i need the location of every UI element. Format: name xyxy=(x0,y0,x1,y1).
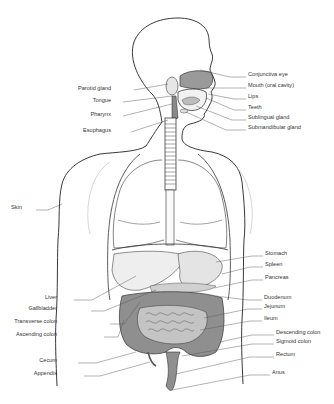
label-skin: Skin xyxy=(11,204,22,211)
label-conjunctiva-eye: Conjunctiva eye xyxy=(248,71,288,78)
label-parotid-gland: Parotid gland xyxy=(78,85,111,92)
label-sigmoid-colon: Sigmoid colon xyxy=(276,338,311,345)
parotid-gland-shape xyxy=(166,77,178,95)
label-stomach: Stomach xyxy=(265,250,287,257)
label-descending-colon: Descending colon xyxy=(276,329,320,336)
label-mouth: Mouth (oral cavity) xyxy=(248,82,294,89)
trachea xyxy=(165,118,176,245)
small-intestine xyxy=(137,305,207,344)
label-transverse-colon: Transverse colon xyxy=(14,318,57,325)
stomach-shape xyxy=(178,251,222,288)
label-duodenum: Duodenum xyxy=(264,294,291,301)
label-liver: Liver xyxy=(45,294,57,301)
label-pancreas: Pancreas xyxy=(265,274,289,281)
nasal-cavity xyxy=(180,71,213,89)
label-anus: Anus xyxy=(272,369,285,376)
label-spleen: Spleen xyxy=(265,261,282,268)
label-gallbladder: Gallbladder xyxy=(28,305,57,312)
label-pharynx: Pharynx xyxy=(90,111,111,118)
label-cecum: Cecum xyxy=(39,357,57,364)
pharynx-shape xyxy=(172,96,178,120)
label-rectum: Rectum xyxy=(276,351,295,358)
label-ascending-colon: Ascending colon xyxy=(16,331,57,338)
label-lips: Lips xyxy=(248,93,258,100)
pancreas-shape xyxy=(150,283,216,293)
abdominal-organs xyxy=(112,244,228,391)
label-ileum: Ileum xyxy=(264,315,278,322)
head-organs xyxy=(166,71,213,120)
label-esophagus: Esophagus xyxy=(83,127,111,134)
label-sublingual-gland: Sublingual gland xyxy=(248,114,289,121)
label-submandibular-gland: Submandibular gland xyxy=(248,124,301,131)
esophagus-tube xyxy=(166,190,174,245)
label-jejunum: Jejunum xyxy=(264,303,285,310)
label-appendix: Appendix xyxy=(34,370,57,377)
rectum-shape xyxy=(166,352,180,391)
label-tongue: Tongue xyxy=(93,97,111,104)
label-teeth: Teeth xyxy=(248,104,262,111)
